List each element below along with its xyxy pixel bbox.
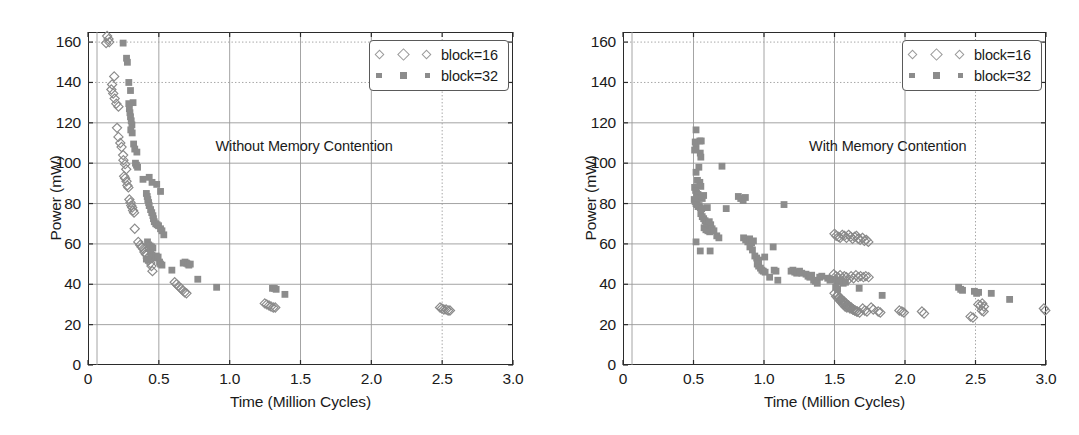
legend-key-filled-square-icon <box>376 72 432 79</box>
x-tick-label: 1.5 <box>824 370 845 388</box>
legend-label-block32: block=32 <box>965 68 1031 84</box>
y-tick-label: 60 <box>64 235 81 253</box>
y-tick-label: 120 <box>56 114 81 132</box>
x-tick-label: 2.5 <box>965 370 986 388</box>
y-axis-title-right: Power (mW) <box>582 148 600 248</box>
legend-key-filled-square-icon <box>909 72 965 79</box>
x-tick-label: 0.5 <box>683 370 704 388</box>
x-axis-title-right: Time (Million Cycles) <box>623 393 1046 411</box>
y-axis-title-left: Power (mW) <box>47 148 65 248</box>
legend-key-open-diamond-icon <box>376 50 432 59</box>
legend-right: block=16 block=32 <box>902 40 1042 91</box>
legend-key-open-diamond-icon <box>909 50 965 59</box>
legend-row-block32: block=32 <box>909 65 1034 86</box>
y-tick-label: 0 <box>73 356 81 374</box>
y-tick-label: 120 <box>591 114 616 132</box>
legend-row-block16: block=16 <box>909 44 1034 65</box>
x-tick-label: 2.0 <box>361 370 382 388</box>
y-tick-label: 40 <box>599 275 616 293</box>
x-tick-label: 1.5 <box>290 370 311 388</box>
x-tick-label: 0 <box>619 370 627 388</box>
y-tick-label: 60 <box>599 235 616 253</box>
x-tick-label: 2.0 <box>895 370 916 388</box>
y-tick-label: 140 <box>56 73 81 91</box>
chart-panel-with-memory-contention: 020406080100120140160 00.51.01.52.02.53.… <box>540 0 1079 435</box>
y-tick-label: 160 <box>56 33 81 51</box>
x-tick-label: 1.0 <box>754 370 775 388</box>
legend-row-block16: block=16 <box>376 44 501 65</box>
x-tick-label: 3.0 <box>1036 370 1057 388</box>
y-tick-label: 0 <box>608 356 616 374</box>
x-tick-label: 3.0 <box>503 370 524 388</box>
legend-left: block=16 block=32 <box>369 40 509 91</box>
figure-root: 020406080100120140160 00.51.01.52.02.53.… <box>0 0 1079 435</box>
x-tick-label: 0 <box>84 370 92 388</box>
legend-label-block16: block=16 <box>965 47 1031 63</box>
legend-label-block32: block=32 <box>432 68 498 84</box>
legend-row-block32: block=32 <box>376 65 501 86</box>
x-axis-title-left: Time (Million Cycles) <box>88 393 513 411</box>
y-tick-label: 80 <box>64 195 81 213</box>
y-tick-label: 20 <box>64 316 81 334</box>
legend-label-block16: block=16 <box>432 47 498 63</box>
y-tick-label: 20 <box>599 316 616 334</box>
y-tick-label: 80 <box>599 195 616 213</box>
panel-annotation-right: With Memory Contention <box>809 138 966 154</box>
chart-panel-without-memory-contention: 020406080100120140160 00.51.01.52.02.53.… <box>0 0 540 435</box>
x-tick-label: 1.0 <box>219 370 240 388</box>
x-tick-label: 2.5 <box>432 370 453 388</box>
y-tick-label: 140 <box>591 73 616 91</box>
y-tick-label: 160 <box>591 33 616 51</box>
panel-annotation-left: Without Memory Contention <box>216 138 393 154</box>
x-tick-label: 0.5 <box>148 370 169 388</box>
y-tick-label: 40 <box>64 275 81 293</box>
